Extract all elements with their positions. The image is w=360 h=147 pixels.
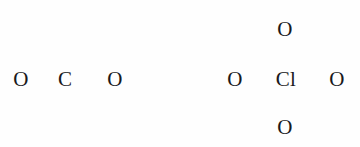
atom-label-c-center-co2: C xyxy=(58,69,72,90)
molecular-formula-figure: O C O O O Cl O O xyxy=(0,0,360,147)
molecule-perchlorate-skeleton: O O Cl O O xyxy=(0,0,360,147)
scan-artifact-band xyxy=(0,92,360,118)
atom-label-cl-center-clo4: Cl xyxy=(276,69,297,90)
atom-label-o-left-clo4: O xyxy=(227,69,242,90)
atom-label-o-bottom-clo4: O xyxy=(277,117,292,138)
atom-label-o-right-co2: O xyxy=(107,69,122,90)
atom-label-o-top-clo4: O xyxy=(277,19,292,40)
molecule-carbon-dioxide-skeleton: O C O xyxy=(0,0,360,147)
atom-label-o-right-clo4: O xyxy=(329,69,344,90)
atom-label-o-left-co2: O xyxy=(13,69,28,90)
